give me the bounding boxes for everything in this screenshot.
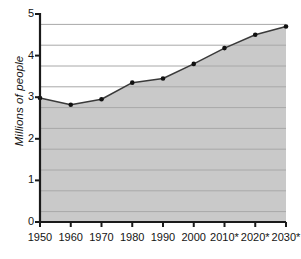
- data-point-marker: [161, 76, 166, 81]
- y-tick-label-5: 5: [22, 7, 34, 19]
- y-tick-label-3: 3: [22, 90, 34, 102]
- data-point-marker: [253, 33, 258, 38]
- chart-container: Millions of people 012345 19501960197019…: [0, 0, 301, 259]
- data-point-marker: [99, 97, 104, 102]
- data-point-marker: [68, 102, 73, 107]
- area-chart-canvas: [0, 0, 301, 259]
- y-tick-label-2: 2: [22, 132, 34, 144]
- data-point-marker: [284, 24, 289, 29]
- data-point-marker: [191, 62, 196, 67]
- data-point-marker: [130, 80, 135, 85]
- data-point-marker: [222, 46, 227, 51]
- y-tick-label-1: 1: [22, 173, 34, 185]
- y-tick-label-0: 0: [22, 215, 34, 227]
- y-tick-label-4: 4: [22, 49, 34, 61]
- x-tick-label-2030-projected: 2030*: [266, 231, 301, 243]
